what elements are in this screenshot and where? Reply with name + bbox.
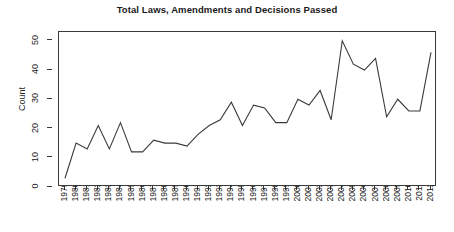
- y-tick-mark: [47, 69, 52, 70]
- y-tick-label: 10: [26, 148, 44, 166]
- line-series-svg: [59, 32, 437, 187]
- chart-title: Total Laws, Amendments and Decisions Pas…: [0, 4, 454, 15]
- y-tick-mark: [47, 127, 52, 128]
- y-tick-label: 40: [26, 60, 44, 78]
- y-tick-mark: [47, 39, 52, 40]
- y-axis-title: Count: [17, 69, 27, 129]
- data-line: [65, 41, 431, 178]
- y-tick-label: 20: [26, 119, 44, 137]
- chart-figure: Total Laws, Amendments and Decisions Pas…: [0, 0, 454, 232]
- y-tick-mark: [47, 98, 52, 99]
- y-tick-label: 0: [26, 177, 44, 195]
- y-tick-label: 50: [26, 31, 44, 49]
- plot-area: [58, 31, 436, 186]
- y-tick-mark: [47, 156, 52, 157]
- y-tick-label: 30: [26, 89, 44, 107]
- y-tick-mark: [47, 186, 52, 187]
